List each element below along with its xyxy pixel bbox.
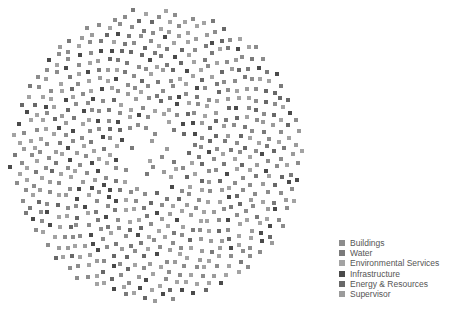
node-environmental-services — [221, 152, 225, 156]
node-buildings — [38, 150, 42, 154]
node-environmental-services — [202, 210, 206, 214]
node-buildings — [64, 133, 68, 137]
node-energy-resources — [187, 151, 191, 155]
node-water — [250, 57, 254, 61]
node-energy-resources — [50, 169, 54, 173]
node-infrastructure — [96, 248, 100, 252]
node-buildings — [124, 234, 128, 238]
node-supervisor — [220, 239, 224, 243]
node-environmental-services — [189, 273, 193, 277]
legend-label: Water — [350, 248, 372, 258]
node-buildings — [88, 40, 92, 44]
node-environmental-services — [71, 95, 75, 99]
legend-label: Supervisor — [350, 289, 391, 299]
node-supervisor — [234, 58, 238, 62]
node-energy-resources — [208, 126, 212, 130]
node-infrastructure — [288, 111, 292, 115]
node-energy-resources — [54, 256, 58, 260]
legend-label: Energy & Resources — [350, 279, 428, 289]
node-infrastructure — [91, 97, 95, 101]
node-water — [165, 63, 169, 67]
node-buildings — [30, 153, 34, 157]
node-water — [223, 139, 227, 143]
node-infrastructure — [185, 69, 189, 73]
node-buildings — [171, 297, 175, 301]
node-environmental-services — [65, 214, 69, 218]
node-environmental-services — [178, 77, 182, 81]
node-environmental-services — [57, 193, 61, 197]
node-energy-resources — [273, 183, 277, 187]
node-infrastructure — [137, 113, 141, 117]
node-buildings — [89, 51, 93, 55]
node-supervisor — [250, 229, 254, 233]
node-supervisor — [38, 188, 42, 192]
node-water — [28, 206, 32, 210]
node-infrastructure — [273, 207, 277, 211]
node-water — [72, 116, 76, 120]
node-buildings — [208, 189, 212, 193]
node-environmental-services — [144, 12, 148, 16]
node-energy-resources — [53, 117, 57, 121]
node-supervisor — [120, 247, 124, 251]
node-supervisor — [177, 34, 181, 38]
node-infrastructure — [260, 152, 264, 156]
node-buildings — [266, 159, 270, 163]
node-buildings — [175, 113, 179, 117]
node-supervisor — [80, 36, 84, 40]
node-buildings — [161, 89, 165, 93]
node-environmental-services — [132, 291, 136, 295]
legend-item-water: Water — [339, 248, 439, 258]
node-infrastructure — [25, 110, 29, 114]
node-infrastructure — [260, 239, 264, 243]
node-infrastructure — [295, 178, 299, 182]
node-buildings — [279, 157, 283, 161]
node-buildings — [124, 168, 128, 172]
node-buildings — [180, 233, 184, 237]
node-energy-resources — [240, 163, 244, 167]
node-environmental-services — [188, 185, 192, 189]
node-water — [229, 148, 233, 152]
node-environmental-services — [184, 280, 188, 284]
node-buildings — [253, 192, 257, 196]
node-water — [58, 141, 62, 145]
node-water — [114, 179, 118, 183]
node-supervisor — [165, 147, 169, 151]
node-environmental-services — [129, 108, 133, 112]
node-buildings — [241, 188, 245, 192]
node-buildings — [95, 199, 99, 203]
node-infrastructure — [99, 49, 103, 53]
node-water — [172, 160, 176, 164]
node-supervisor — [207, 180, 211, 184]
node-environmental-services — [206, 200, 210, 204]
node-buildings — [74, 102, 78, 106]
node-buildings — [97, 109, 101, 113]
node-infrastructure — [45, 210, 49, 214]
node-buildings — [117, 226, 121, 230]
swatch-icon — [339, 240, 345, 246]
node-buildings — [116, 218, 120, 222]
node-water — [153, 51, 157, 55]
node-environmental-services — [169, 175, 173, 179]
node-buildings — [21, 199, 25, 203]
node-infrastructure — [181, 122, 185, 126]
node-infrastructure — [227, 195, 231, 199]
node-water — [272, 201, 276, 205]
node-water — [222, 162, 226, 166]
node-buildings — [57, 52, 61, 56]
node-water — [203, 58, 207, 62]
node-buildings — [277, 218, 281, 222]
node-buildings — [197, 198, 201, 202]
node-buildings — [118, 111, 122, 115]
node-buildings — [85, 171, 89, 175]
node-energy-resources — [20, 103, 24, 107]
node-environmental-services — [123, 180, 127, 184]
node-water — [262, 130, 266, 134]
node-buildings — [279, 130, 283, 134]
node-environmental-services — [237, 234, 241, 238]
node-buildings — [97, 190, 101, 194]
node-energy-resources — [179, 61, 183, 65]
node-buildings — [97, 127, 101, 131]
node-energy-resources — [214, 134, 218, 138]
node-infrastructure — [83, 205, 87, 209]
node-buildings — [199, 145, 203, 149]
